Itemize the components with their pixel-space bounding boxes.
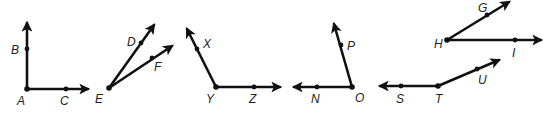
point-B [25,47,30,52]
label-A: A [16,94,25,108]
label-S: S [396,92,404,106]
ray-YX [187,29,216,87]
label-P: P [347,39,355,53]
angle-XYZ: XZY [187,29,280,106]
angle-GHI: GIH [434,1,541,60]
point-N [315,85,320,90]
label-T: T [435,92,444,106]
label-E: E [95,92,104,106]
label-O: O [355,91,364,105]
vertex-E [106,85,112,91]
label-F: F [154,60,162,74]
point-X [195,47,200,52]
ray-OP [334,24,352,87]
point-C [64,87,69,92]
vertex-T [435,83,441,89]
vertex-Y [213,84,219,90]
angle-BAC: BCA [11,23,88,108]
ray-TU [438,60,499,86]
angles-diagram: BCADFEXZYPNOGIHSUT [0,0,551,114]
label-B: B [11,43,19,57]
label-D: D [127,35,136,49]
angle-DEF: DFE [95,25,172,106]
point-D [139,41,144,46]
ray-EF [109,46,172,88]
point-P [339,43,344,48]
label-I: I [512,46,516,60]
point-Z [252,85,257,90]
label-G: G [478,1,487,15]
label-H: H [434,37,443,51]
angle-STU: SUT [380,60,499,106]
point-U [475,67,480,72]
label-X: X [202,37,212,51]
vertex-A [24,86,30,92]
angle-NOP: PNO [294,24,364,106]
angles-diagram-svg: BCADFEXZYPNOGIHSUT [0,0,551,114]
label-Z: Z [248,92,257,106]
point-I [513,38,518,43]
label-C: C [60,94,69,108]
point-S [399,84,404,89]
label-N: N [311,92,320,106]
label-Y: Y [206,92,215,106]
label-U: U [478,73,487,87]
vertex-O [349,84,355,90]
vertex-H [444,37,450,43]
